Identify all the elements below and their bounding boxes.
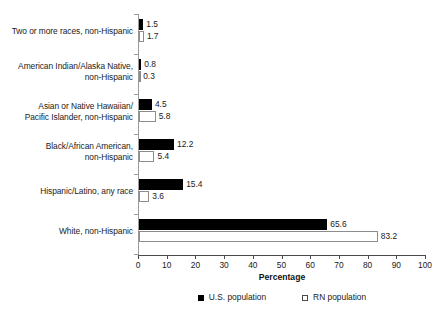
bar-value-rn: 0.3 bbox=[143, 71, 155, 82]
category-label-line: Two or more races, non-Hispanic bbox=[0, 26, 133, 37]
bar-pair: 12.2 5.4 bbox=[139, 134, 426, 174]
bar-us-population bbox=[139, 99, 152, 110]
open-square-icon bbox=[302, 295, 308, 301]
bar-pair: 4.5 5.8 bbox=[139, 94, 426, 134]
bar-value-us: 15.4 bbox=[186, 179, 202, 190]
x-axis-tick bbox=[339, 255, 340, 259]
x-axis-tick-label: 40 bbox=[238, 260, 268, 271]
category-label-line: Asian or Native Hawaiian/ bbox=[0, 101, 133, 112]
category-label: Hispanic/Latino, any race bbox=[0, 186, 133, 197]
bar-rn-population bbox=[139, 151, 154, 162]
category-group: American Indian/Alaska Native, non-Hispa… bbox=[0, 54, 436, 94]
category-label: White, non-Hispanic bbox=[0, 226, 133, 237]
bar-value-rn: 83.2 bbox=[381, 231, 397, 242]
bar-us-population bbox=[139, 179, 183, 190]
x-axis-tick bbox=[425, 255, 426, 259]
category-label-line: non-Hispanic bbox=[0, 72, 133, 83]
bar-value-rn: 3.6 bbox=[152, 191, 164, 202]
x-axis-tick bbox=[253, 255, 254, 259]
legend-item-us-population: U.S. population bbox=[198, 292, 266, 303]
x-axis-tick bbox=[224, 255, 225, 259]
bar-value-us: 12.2 bbox=[177, 139, 193, 150]
x-axis-tick-label: 100 bbox=[410, 260, 436, 271]
category-group: Two or more races, non-Hispanic 1.5 1.7 bbox=[0, 14, 436, 54]
category-group: Asian or Native Hawaiian/ Pacific Island… bbox=[0, 94, 436, 134]
bar-rn-population bbox=[139, 31, 144, 42]
bar-rn-population bbox=[139, 71, 141, 82]
x-axis-tick bbox=[396, 255, 397, 259]
x-axis-tick-label: 0 bbox=[123, 260, 153, 271]
bar-us-population bbox=[139, 139, 174, 150]
bar-value-us: 65.6 bbox=[330, 219, 346, 230]
bar-value-us: 1.5 bbox=[146, 19, 158, 30]
bar-pair: 1.5 1.7 bbox=[139, 14, 426, 54]
bar-rn-population bbox=[139, 111, 156, 122]
x-axis-tick bbox=[310, 255, 311, 259]
x-axis-tick-label: 60 bbox=[295, 260, 325, 271]
bar-value-rn: 1.7 bbox=[147, 31, 159, 42]
legend-label: RN population bbox=[313, 292, 366, 303]
category-label-line: Pacific Islander, non-Hispanic bbox=[0, 112, 133, 123]
x-axis-tick-label: 90 bbox=[381, 260, 411, 271]
bar-us-population bbox=[139, 59, 141, 70]
chart-legend: U.S. population RN population bbox=[138, 292, 426, 303]
legend-label: U.S. population bbox=[209, 292, 266, 303]
category-label-line: non-Hispanic bbox=[0, 152, 133, 163]
x-axis-tick-label: 10 bbox=[152, 260, 182, 271]
x-axis-tick bbox=[167, 255, 168, 259]
x-axis-tick-label: 70 bbox=[324, 260, 354, 271]
category-group: White, non-Hispanic 65.6 83.2 bbox=[0, 214, 436, 254]
x-axis-tick bbox=[368, 255, 369, 259]
bar-value-us: 0.8 bbox=[144, 59, 156, 70]
category-group: Black/African American, non-Hispanic 12.… bbox=[0, 134, 436, 174]
race-ethnicity-bar-chart: Two or more races, non-Hispanic 1.5 1.7 … bbox=[0, 0, 436, 315]
bar-pair: 0.8 0.3 bbox=[139, 54, 426, 94]
filled-square-icon bbox=[198, 295, 204, 301]
x-axis-tick bbox=[138, 255, 139, 259]
category-label-line: American Indian/Alaska Native, bbox=[0, 61, 133, 72]
bar-us-population bbox=[139, 19, 143, 30]
category-label: Black/African American, non-Hispanic bbox=[0, 141, 133, 162]
bar-rn-population bbox=[139, 231, 378, 242]
bar-pair: 15.4 3.6 bbox=[139, 174, 426, 214]
x-axis-title: Percentage bbox=[138, 272, 426, 282]
bar-value-rn: 5.4 bbox=[157, 151, 169, 162]
bar-value-us: 4.5 bbox=[155, 99, 167, 110]
bar-value-rn: 5.8 bbox=[159, 111, 171, 122]
legend-item-rn-population: RN population bbox=[302, 292, 366, 303]
category-label: Two or more races, non-Hispanic bbox=[0, 26, 133, 37]
category-label-line: Hispanic/Latino, any race bbox=[0, 186, 133, 197]
category-label: Asian or Native Hawaiian/ Pacific Island… bbox=[0, 101, 133, 122]
category-group: Hispanic/Latino, any race 15.4 3.6 bbox=[0, 174, 436, 214]
category-label-line: Black/African American, bbox=[0, 141, 133, 152]
x-axis-tick bbox=[195, 255, 196, 259]
category-label-line: White, non-Hispanic bbox=[0, 226, 133, 237]
x-axis-tick-label: 80 bbox=[353, 260, 383, 271]
x-axis-tick bbox=[282, 255, 283, 259]
bar-rn-population bbox=[139, 191, 149, 202]
x-axis-tick-label: 20 bbox=[180, 260, 210, 271]
category-label: American Indian/Alaska Native, non-Hispa… bbox=[0, 61, 133, 82]
bar-us-population bbox=[139, 219, 327, 230]
x-axis-tick-label: 30 bbox=[209, 260, 239, 271]
bar-pair: 65.6 83.2 bbox=[139, 214, 426, 254]
x-axis-tick-label: 50 bbox=[267, 260, 297, 271]
